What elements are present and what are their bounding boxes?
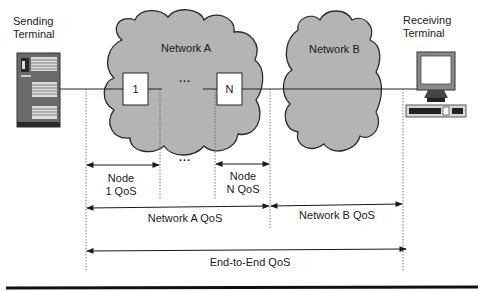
receiving-terminal-label: Receiving Terminal <box>403 14 451 40</box>
sending-terminal-line1: Sending <box>13 15 55 28</box>
network-b-qos-arrow <box>271 204 402 206</box>
node-1-label: 1 <box>123 83 148 96</box>
network-b-label: Network B <box>309 43 360 56</box>
network-a-qos-label: Network A QoS <box>130 212 240 225</box>
node-1-qos-line1: Node <box>96 172 146 185</box>
server-tower-icon <box>17 53 60 127</box>
receiving-terminal-line2: Terminal <box>403 27 451 40</box>
computer-monitor-icon <box>406 52 466 117</box>
node-n-label: N <box>217 83 242 96</box>
end-to-end-qos-arrow <box>87 249 406 251</box>
nodes-ellipsis: ... <box>170 72 200 85</box>
receiving-terminal-line1: Receiving <box>403 14 451 27</box>
network-a-label: Network A <box>161 42 211 55</box>
between-nodes-ellipsis: ... <box>170 151 200 164</box>
network-b-qos-label: Network B QoS <box>282 209 392 222</box>
bottom-rule <box>6 287 478 288</box>
node-1-qos-line2: 1 QoS <box>96 185 146 198</box>
network-b-cloud <box>283 11 381 151</box>
node-1-qos-label: Node 1 QoS <box>96 172 146 198</box>
sending-terminal-label: Sending Terminal <box>13 15 55 41</box>
network-a-qos-arrow <box>87 206 269 208</box>
sending-terminal-line2: Terminal <box>13 28 55 41</box>
end-to-end-qos-label: End-to-End QoS <box>190 256 310 269</box>
node-n-qos-label: Node N QoS <box>216 170 270 196</box>
node-n-qos-line2: N QoS <box>216 183 270 196</box>
node-n-qos-line1: Node <box>216 170 270 183</box>
qos-diagram: Sending Terminal Receiving Terminal Netw… <box>0 0 482 291</box>
